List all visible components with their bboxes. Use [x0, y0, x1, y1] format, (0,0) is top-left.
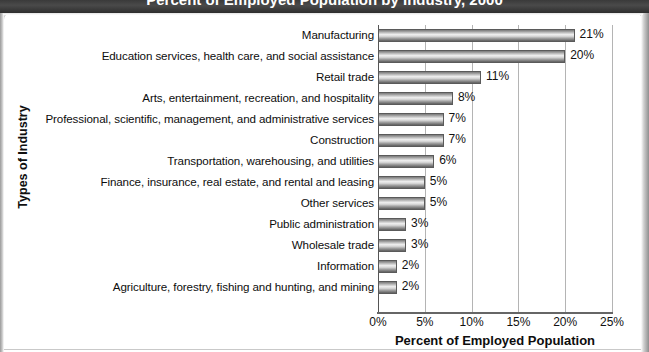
bar-value-label: 21%	[580, 27, 604, 41]
bar-row: 7%	[378, 109, 612, 130]
category-label: Public administration	[269, 217, 374, 230]
bar	[378, 197, 425, 210]
category-label: Arts, entertainment, recreation, and hos…	[142, 91, 374, 104]
category-label: Agriculture, forestry, fishing and hunti…	[113, 280, 374, 293]
bar-row: 5%	[378, 193, 612, 214]
chart-figure: Percent of Employed Population by Indust…	[0, 0, 649, 352]
bar-row: 2%	[378, 256, 612, 277]
bar-value-label: 11%	[486, 69, 509, 83]
category-label: Other services	[301, 196, 374, 209]
bar-value-label: 2%	[402, 279, 419, 293]
bar-value-label: 20%	[570, 48, 594, 62]
bar-row: 6%	[378, 151, 612, 172]
bar	[378, 113, 444, 126]
category-label: Information	[317, 259, 374, 272]
x-axis-line	[377, 312, 613, 314]
bar	[378, 71, 481, 84]
bar	[378, 29, 575, 42]
chart-title: Percent of Employed Population by Indust…	[0, 0, 649, 8]
bar-row: 3%	[378, 235, 612, 256]
bar-value-label: 7%	[449, 111, 466, 125]
bar-row: 21%	[378, 25, 612, 46]
chart-plot-area: Types of Industry ManufacturingEducation…	[0, 0, 649, 352]
category-label: Construction	[310, 133, 374, 146]
bar	[378, 218, 406, 231]
bar-row: 11%	[378, 67, 612, 88]
bar-row: 3%	[378, 214, 612, 235]
y-axis-category-labels: ManufacturingEducation services, health …	[20, 25, 374, 312]
category-label: Manufacturing	[302, 28, 374, 41]
bar-value-label: 2%	[402, 258, 419, 272]
x-tick-label: 5%	[416, 315, 433, 329]
category-label: Education services, health care, and soc…	[102, 49, 374, 62]
category-label: Wholesale trade	[292, 238, 374, 251]
x-tick-label: 15%	[506, 315, 530, 329]
bar	[378, 92, 453, 105]
bar	[378, 155, 434, 168]
gridline	[612, 25, 613, 312]
x-tick-label: 10%	[460, 315, 484, 329]
x-tick-label: 0%	[369, 315, 386, 329]
bar-value-label: 7%	[449, 132, 466, 146]
category-label: Transportation, warehousing, and utiliti…	[167, 154, 374, 167]
bar-value-label: 5%	[430, 195, 447, 209]
bar	[378, 134, 444, 147]
bar-row: 20%	[378, 46, 612, 67]
category-label: Finance, insurance, real estate, and ren…	[100, 175, 374, 188]
bar-value-label: 3%	[411, 216, 428, 230]
bar	[378, 281, 397, 294]
x-tick-label: 20%	[553, 315, 577, 329]
bar	[378, 260, 397, 273]
bar	[378, 176, 425, 189]
bars-container: 21%20%11%8%7%7%6%5%5%3%3%2%2%	[378, 25, 612, 312]
bar-row: 5%	[378, 172, 612, 193]
bar	[378, 50, 565, 63]
category-label: Professional, scientific, management, an…	[45, 112, 374, 125]
bar-row: 7%	[378, 130, 612, 151]
category-label: Retail trade	[316, 70, 374, 83]
bar-value-label: 3%	[411, 237, 428, 251]
x-tick-label: 25%	[600, 315, 624, 329]
bar-row: 8%	[378, 88, 612, 109]
bar-value-label: 8%	[458, 90, 475, 104]
bar-row: 2%	[378, 277, 612, 298]
bar	[378, 239, 406, 252]
bar-value-label: 6%	[439, 153, 456, 167]
bar-value-label: 5%	[430, 174, 447, 188]
chart-title-band: Percent of Employed Population by Indust…	[0, 0, 649, 13]
x-axis-title: Percent of Employed Population	[378, 333, 612, 348]
